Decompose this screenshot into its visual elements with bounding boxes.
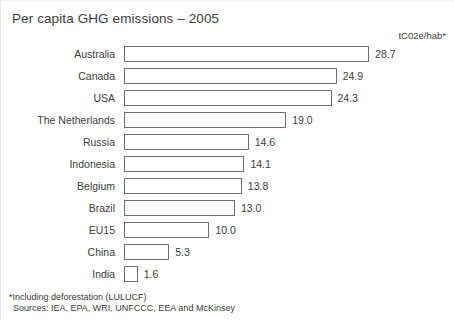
chart-row: Belgium13.8 — [1, 177, 454, 199]
chart-row: Australia28.7 — [1, 45, 454, 67]
chart-row: EU1510.0 — [1, 221, 454, 243]
category-label: Brazil — [1, 199, 115, 217]
category-label: Russia — [1, 133, 115, 151]
bar-value-label: 1.6 — [144, 266, 159, 282]
bar-container: 28.7 — [124, 46, 369, 62]
bar — [124, 90, 332, 106]
bar — [124, 68, 337, 84]
category-label: Canada — [1, 67, 115, 85]
chart-row: Brazil13.0 — [1, 199, 454, 221]
category-label: USA — [1, 89, 115, 107]
chart-row: USA24.3 — [1, 89, 454, 111]
footnotes: *Including deforestation (LULUCF) Source… — [9, 292, 235, 314]
bar-container: 14.1 — [124, 156, 244, 172]
bar-value-label: 24.3 — [338, 90, 358, 106]
bar-container: 24.9 — [124, 68, 337, 84]
bar-value-label: 13.0 — [241, 200, 261, 216]
page-title: Per capita GHG emissions – 2005 — [12, 11, 219, 26]
bar-container: 10.0 — [124, 222, 209, 238]
bar-container: 13.0 — [124, 200, 235, 216]
bar — [124, 178, 242, 194]
units-label: tC02e/hab* — [398, 30, 446, 41]
footnote-sources: Sources: IEA, EPA, WRI, UNFCCC, EEA and … — [9, 303, 235, 314]
bar-container: 5.3 — [124, 244, 169, 260]
bar-value-label: 28.7 — [375, 46, 395, 62]
bar — [124, 156, 244, 172]
bar — [124, 46, 369, 62]
bar-container: 14.6 — [124, 134, 249, 150]
bar — [124, 222, 209, 238]
chart-row: India1.6 — [1, 265, 454, 287]
bar — [124, 266, 138, 282]
bar-value-label: 10.0 — [215, 222, 235, 238]
bar-chart-plot: Australia28.7Canada24.9USA24.3The Nether… — [1, 45, 454, 287]
bar-value-label: 13.8 — [248, 178, 268, 194]
bar — [124, 244, 169, 260]
category-label: The Netherlands — [1, 111, 115, 129]
category-label: EU15 — [1, 221, 115, 239]
bar-container: 19.0 — [124, 112, 286, 128]
category-label: India — [1, 265, 115, 283]
chart-page: Per capita GHG emissions – 2005 tC02e/ha… — [0, 0, 454, 320]
chart-row: Indonesia14.1 — [1, 155, 454, 177]
bar-container: 24.3 — [124, 90, 332, 106]
bar-container: 13.8 — [124, 178, 242, 194]
category-label: Indonesia — [1, 155, 115, 173]
bar — [124, 200, 235, 216]
chart-row: The Netherlands19.0 — [1, 111, 454, 133]
chart-row: China5.3 — [1, 243, 454, 265]
bar-value-label: 14.6 — [255, 134, 275, 150]
bar-value-label: 5.3 — [175, 244, 190, 260]
chart-row: Russia14.6 — [1, 133, 454, 155]
bar-container: 1.6 — [124, 266, 138, 282]
bar-value-label: 19.0 — [292, 112, 312, 128]
chart-row: Canada24.9 — [1, 67, 454, 89]
bar-value-label: 24.9 — [343, 68, 363, 84]
category-label: Belgium — [1, 177, 115, 195]
category-label: China — [1, 243, 115, 261]
bar-value-label: 14.1 — [250, 156, 270, 172]
footnote-deforestation: *Including deforestation (LULUCF) — [9, 292, 235, 303]
bar — [124, 134, 249, 150]
category-label: Australia — [1, 45, 115, 63]
bar — [124, 112, 286, 128]
